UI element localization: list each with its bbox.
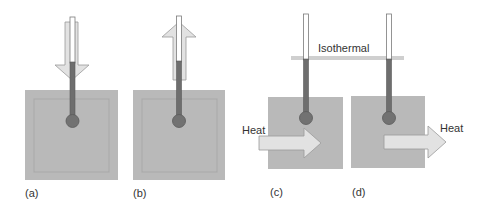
panel-label: (d)	[352, 186, 365, 198]
panel-label: (c)	[270, 186, 283, 198]
isothermal-label: Isothermal	[318, 42, 369, 54]
thermometer-tube	[304, 14, 309, 60]
thermometer-bulb	[173, 115, 186, 128]
panel-label: (b)	[133, 187, 146, 199]
thermometer-mercury	[70, 62, 75, 117]
thermometer-bulb	[66, 115, 79, 128]
thermometer-tube	[177, 16, 182, 62]
heat-label: Heat	[242, 124, 265, 136]
thermometer-mercury	[304, 59, 309, 114]
thermometer-mercury	[387, 59, 392, 114]
thermometer-diagram: (a) (b) Isothermal Heat (c)	[0, 0, 485, 218]
heat-label: Heat	[440, 122, 463, 134]
thermometer-tube	[387, 14, 392, 60]
panel-a: (a)	[25, 17, 118, 199]
thermometer-bulb	[383, 112, 396, 125]
thermometer-bulb	[300, 112, 313, 125]
panel-label: (a)	[25, 187, 38, 199]
thermometer-tube	[70, 17, 75, 63]
thermometer-mercury	[177, 61, 182, 117]
panel-b: (b)	[133, 16, 225, 199]
